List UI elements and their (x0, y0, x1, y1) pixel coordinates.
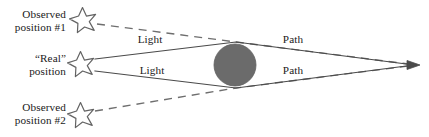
label-path-lower: Path (264, 64, 322, 77)
star-observed-position-1 (70, 8, 96, 33)
label-observed-position-2-line2: position #2 (2, 114, 66, 127)
gravitational-lensing-diagram: Observed position #1 “Real” position Obs… (0, 0, 429, 137)
label-light-lower: Light (123, 64, 181, 77)
observer-arrowhead (407, 61, 420, 70)
label-observed-position-1-line2: position #1 (2, 21, 66, 34)
label-path-upper: Path (264, 33, 322, 46)
star-real-position (68, 52, 94, 77)
label-real-position: “Real” position (2, 52, 66, 78)
gravitational-mass-circle (214, 44, 256, 86)
label-observed-position-1-line1: Observed (2, 8, 66, 21)
star-observed-position-2 (68, 103, 94, 128)
label-light-upper: Light (121, 33, 179, 46)
label-observed-position-2: Observed position #2 (2, 101, 66, 127)
label-observed-position-1: Observed position #1 (2, 8, 66, 34)
label-real-position-line1: “Real” (2, 52, 66, 65)
label-real-position-line2: position (2, 65, 66, 78)
label-observed-position-2-line1: Observed (2, 101, 66, 114)
